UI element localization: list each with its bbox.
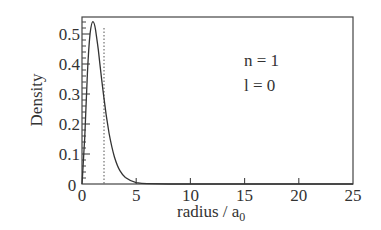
- density-curve: [82, 22, 353, 184]
- annotation-n: n = 1: [244, 51, 279, 70]
- y-tick-label: 0.4: [59, 55, 81, 74]
- x-axis-label: radius / a0: [177, 202, 245, 224]
- y-tick-label: 0.2: [59, 115, 80, 134]
- y-tick-label: 0.1: [59, 145, 80, 164]
- x-tick-label: 20: [290, 186, 307, 205]
- y-tick-label: 0: [68, 176, 77, 195]
- y-axis-label: Density: [27, 73, 46, 126]
- x-axis-label-subscript: 0: [239, 210, 245, 224]
- x-major-ticks: [136, 178, 299, 184]
- x-tick-label: 0: [78, 186, 87, 205]
- x-axis-label-main: radius / a: [177, 202, 240, 221]
- radial-density-chart: 0 0.1 0.2 0.3 0.4 0.5 0 5 10 15 20 25 De…: [0, 0, 381, 230]
- y-tick-label: 0.3: [59, 85, 80, 104]
- x-tick-label: 25: [345, 186, 362, 205]
- y-tick-label: 0.5: [59, 25, 80, 44]
- annotation-l: l = 0: [244, 76, 275, 95]
- plot-frame: [82, 17, 353, 184]
- x-tick-label: 5: [132, 186, 141, 205]
